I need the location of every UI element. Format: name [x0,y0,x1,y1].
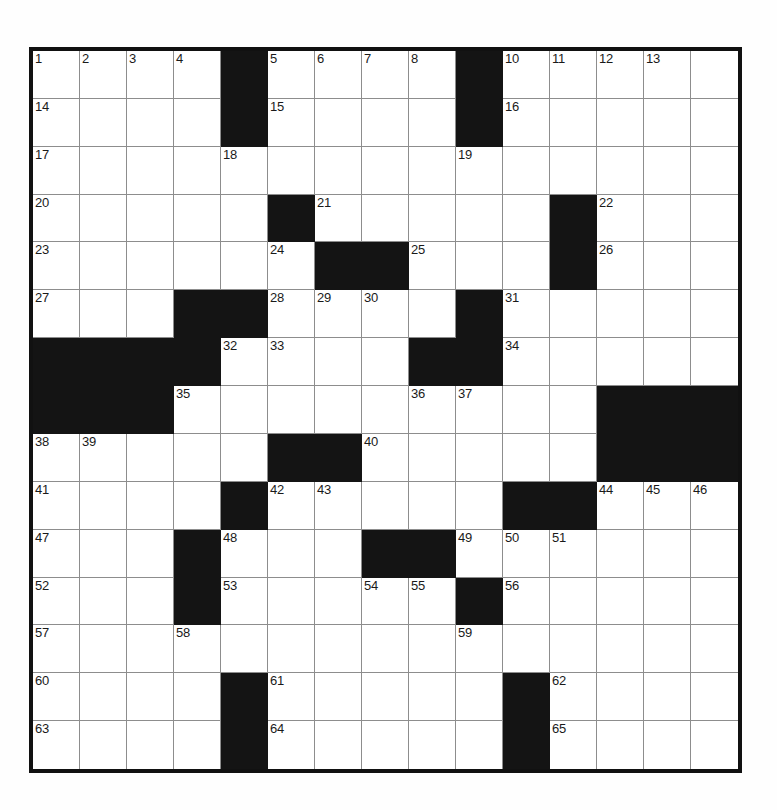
grid-cell[interactable]: 62 [550,673,597,721]
grid-cell[interactable] [127,482,174,530]
grid-cell[interactable] [503,386,550,434]
grid-cell[interactable] [362,386,409,434]
grid-cell[interactable]: 11 [550,51,597,99]
grid-cell[interactable]: 54 [362,578,409,626]
grid-cell[interactable]: 55 [409,578,456,626]
grid-cell[interactable] [644,578,691,626]
grid-cell[interactable]: 36 [409,386,456,434]
grid-cell[interactable] [691,721,738,769]
grid-cell[interactable] [456,721,503,769]
grid-cell[interactable] [644,673,691,721]
grid-cell[interactable] [315,147,362,195]
grid-cell[interactable]: 42 [268,482,315,530]
grid-cell[interactable]: 45 [644,482,691,530]
grid-cell[interactable] [409,290,456,338]
grid-cell[interactable] [268,625,315,673]
grid-cell[interactable] [174,195,221,243]
grid-cell[interactable] [362,625,409,673]
grid-cell[interactable] [597,338,644,386]
grid-cell[interactable] [362,721,409,769]
grid-cell[interactable] [127,721,174,769]
grid-cell[interactable] [174,99,221,147]
grid-cell[interactable] [550,338,597,386]
grid-cell[interactable] [456,673,503,721]
grid-cell[interactable] [362,338,409,386]
grid-cell[interactable]: 43 [315,482,362,530]
grid-cell[interactable] [315,386,362,434]
grid-cell[interactable] [691,242,738,290]
grid-cell[interactable] [127,242,174,290]
grid-cell[interactable] [80,195,127,243]
grid-cell[interactable] [80,578,127,626]
grid-cell[interactable]: 16 [503,99,550,147]
grid-cell[interactable] [127,625,174,673]
grid-cell[interactable] [174,147,221,195]
grid-cell[interactable] [550,147,597,195]
grid-cell[interactable] [80,625,127,673]
grid-cell[interactable] [503,195,550,243]
grid-cell[interactable] [362,147,409,195]
grid-cell[interactable]: 64 [268,721,315,769]
grid-cell[interactable] [409,721,456,769]
grid-cell[interactable] [644,338,691,386]
grid-cell[interactable]: 35 [174,386,221,434]
grid-cell[interactable] [80,482,127,530]
grid-cell[interactable] [409,195,456,243]
grid-cell[interactable] [550,434,597,482]
grid-cell[interactable]: 52 [33,578,80,626]
grid-cell[interactable] [503,434,550,482]
grid-cell[interactable] [127,434,174,482]
grid-cell[interactable] [456,482,503,530]
grid-cell[interactable] [597,99,644,147]
grid-cell[interactable] [550,386,597,434]
grid-cell[interactable] [644,99,691,147]
grid-cell[interactable] [456,242,503,290]
grid-cell[interactable] [550,290,597,338]
grid-cell[interactable]: 19 [456,147,503,195]
grid-cell[interactable] [691,625,738,673]
grid-cell[interactable]: 49 [456,530,503,578]
grid-cell[interactable] [127,147,174,195]
grid-cell[interactable]: 4 [174,51,221,99]
grid-cell[interactable] [315,625,362,673]
grid-cell[interactable] [550,625,597,673]
grid-cell[interactable] [174,673,221,721]
grid-cell[interactable]: 27 [33,290,80,338]
grid-cell[interactable] [362,195,409,243]
grid-cell[interactable]: 28 [268,290,315,338]
grid-cell[interactable] [691,195,738,243]
grid-cell[interactable] [268,578,315,626]
grid-cell[interactable]: 38 [33,434,80,482]
grid-cell[interactable] [409,625,456,673]
grid-cell[interactable] [315,99,362,147]
grid-cell[interactable] [597,578,644,626]
grid-cell[interactable] [409,99,456,147]
grid-cell[interactable] [456,434,503,482]
grid-cell[interactable]: 23 [33,242,80,290]
grid-cell[interactable] [597,673,644,721]
grid-cell[interactable] [127,290,174,338]
grid-cell[interactable] [127,673,174,721]
grid-cell[interactable] [174,482,221,530]
grid-cell[interactable] [644,625,691,673]
grid-cell[interactable] [315,578,362,626]
grid-cell[interactable]: 25 [409,242,456,290]
grid-cell[interactable] [550,578,597,626]
grid-cell[interactable] [268,386,315,434]
grid-cell[interactable] [362,99,409,147]
grid-cell[interactable] [221,625,268,673]
grid-cell[interactable] [268,530,315,578]
grid-cell[interactable]: 58 [174,625,221,673]
grid-cell[interactable] [362,482,409,530]
grid-cell[interactable]: 18 [221,147,268,195]
grid-cell[interactable] [691,147,738,195]
grid-cell[interactable]: 39 [80,434,127,482]
grid-cell[interactable]: 53 [221,578,268,626]
grid-cell[interactable]: 8 [409,51,456,99]
grid-cell[interactable]: 21 [315,195,362,243]
crossword-grid[interactable]: 1234567810111213141516171819202122232425… [29,47,742,773]
grid-cell[interactable]: 5 [268,51,315,99]
grid-cell[interactable] [127,99,174,147]
grid-cell[interactable]: 31 [503,290,550,338]
grid-cell[interactable]: 59 [456,625,503,673]
